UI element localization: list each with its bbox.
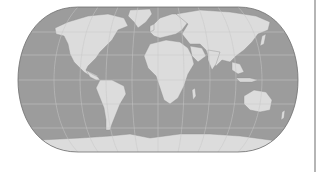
- world-map[interactable]: [0, 0, 317, 172]
- panel-divider: [314, 0, 316, 172]
